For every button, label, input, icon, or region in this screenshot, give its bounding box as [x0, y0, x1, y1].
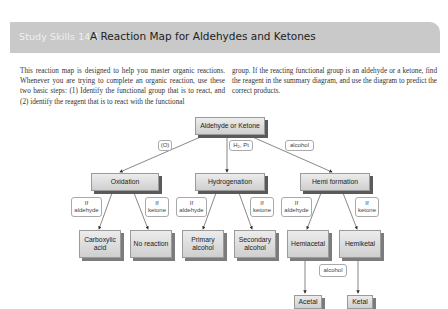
reagent-alcohol-label: alcohol — [285, 140, 314, 151]
product-no-reaction: No reaction — [130, 230, 172, 258]
condition-if-ketone-oxidation: If ketone — [145, 197, 169, 217]
product-acetal: Acetal — [294, 295, 322, 309]
product-hemiketal: Hemiketal — [339, 230, 381, 258]
product-carboxylic-acid: Carboxylic acid — [79, 230, 121, 258]
root-node-aldehyde-or-ketone: Aldehyde or Ketone — [195, 117, 265, 135]
node-hydrogenation: Hydrogenation — [195, 173, 265, 191]
second-reagent-alcohol-label: alcohol — [319, 264, 347, 277]
condition-if-aldehyde-hydrogenation: If aldehyde — [176, 197, 207, 217]
condition-if-ketone-hydrogenation: If ketone — [250, 197, 274, 217]
node-hemi-formation: Hemi formation — [300, 173, 370, 191]
product-secondary-alcohol: Secondary alcohol — [234, 230, 276, 258]
node-oxidation: Oxidation — [91, 173, 159, 191]
reagent-oxidation-label: (O) — [158, 140, 172, 151]
product-hemiacetal: Hemiacetal — [287, 230, 329, 258]
product-ketal: Ketal — [347, 295, 373, 309]
product-primary-alcohol: Primary alcohol — [182, 230, 224, 258]
condition-if-ketone-hemi: If ketone — [355, 197, 379, 217]
condition-if-aldehyde-oxidation: If aldehyde — [71, 197, 102, 217]
reagent-hydrogenation-label: H₂, Pt — [229, 140, 253, 151]
condition-if-aldehyde-hemi: If aldehyde — [281, 197, 312, 217]
